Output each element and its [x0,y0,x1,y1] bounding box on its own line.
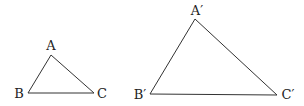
vertex-label-a: A [45,38,56,53]
vertex-label-c-prime: C′ [282,87,295,102]
vertex-label-b-prime: B′ [134,87,147,102]
triangle-a-prime-b-prime-c-prime [150,19,277,95]
vertex-label-a-prime: A′ [190,3,203,18]
vertex-label-c: C [97,86,107,101]
similar-triangles-diagram: A B C A′ B′ C′ [0,0,304,106]
triangle-abc [28,55,94,93]
vertex-label-b: B [14,86,24,101]
